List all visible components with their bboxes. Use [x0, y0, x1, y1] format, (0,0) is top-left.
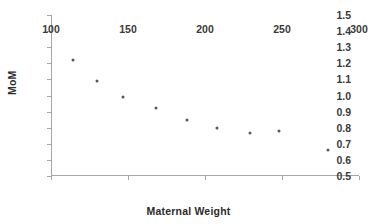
y-axis-tick [47, 15, 51, 16]
data-point [277, 129, 280, 132]
y-axis-tick [47, 112, 51, 113]
y-axis-tick-label: 0.9 [336, 106, 351, 117]
y-axis-tick-label: 0.5 [336, 171, 351, 182]
y-axis-tick-label: 1.5 [336, 10, 351, 21]
x-axis-tick-label: 100 [42, 24, 60, 35]
data-point [96, 80, 99, 83]
x-axis-tick [128, 176, 129, 180]
y-axis-tick-label: 0.6 [336, 155, 351, 166]
y-axis-tick-label: 0.7 [336, 139, 351, 150]
y-axis-tick [47, 47, 51, 48]
y-axis-tick [47, 160, 51, 161]
y-axis-tick-label: 1.1 [336, 74, 351, 85]
y-axis-tick-label: 1.4 [336, 26, 351, 37]
x-axis-tick-label: 150 [119, 24, 137, 35]
data-point [71, 59, 74, 62]
scatter-chart-figure: MoM 0.50.60.70.80.91.01.11.21.31.41.5 10… [0, 0, 377, 224]
x-axis-tick [359, 176, 360, 180]
x-axis-tick-label: 300 [350, 24, 368, 35]
data-point [122, 96, 125, 99]
y-axis-tick [47, 79, 51, 80]
x-axis-tick [282, 176, 283, 180]
y-axis-tick [47, 63, 51, 64]
x-axis-title: Maternal Weight [0, 205, 377, 217]
y-axis-tick-label: 1.0 [336, 90, 351, 101]
y-axis-title: MoM [6, 70, 18, 95]
x-axis-tick [51, 176, 52, 180]
data-point [216, 126, 219, 129]
data-point [327, 149, 330, 152]
y-axis-line [51, 15, 52, 176]
data-point [154, 107, 157, 110]
data-point [248, 131, 251, 134]
x-axis-tick-label: 200 [196, 24, 214, 35]
y-axis-tick-label: 1.3 [336, 42, 351, 53]
y-axis-tick-label: 0.8 [336, 122, 351, 133]
x-axis-tick-label: 250 [273, 24, 291, 35]
y-axis-tick [47, 96, 51, 97]
y-axis-tick [47, 144, 51, 145]
data-point [185, 118, 188, 121]
plot-area: 0.50.60.70.80.91.01.11.21.31.41.5 100150… [51, 15, 359, 176]
y-axis-tick [47, 128, 51, 129]
y-axis-tick-label: 1.2 [336, 58, 351, 69]
x-axis-tick [205, 176, 206, 180]
